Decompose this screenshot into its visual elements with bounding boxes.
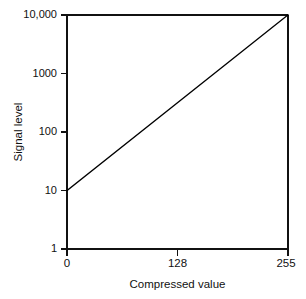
y-tick-label-10: 10 [45, 184, 57, 196]
chart-svg: 10,000 1000 100 10 1 0 128 255 Compresse… [0, 0, 306, 299]
chart-background [0, 0, 306, 299]
x-tick-label-0: 0 [64, 257, 70, 269]
x-tick-label-255: 255 [276, 257, 295, 269]
y-axis-title: Signal level [12, 103, 24, 162]
y-tick-label-1000: 1000 [33, 67, 57, 79]
x-tick-label-128: 128 [168, 257, 187, 269]
y-tick-label-10000: 10,000 [23, 8, 57, 20]
y-tick-label-100: 100 [39, 125, 57, 137]
chart-figure: 10,000 1000 100 10 1 0 128 255 Compresse… [0, 0, 306, 299]
x-axis-title: Compressed value [130, 278, 226, 290]
y-tick-label-1: 1 [51, 242, 57, 254]
